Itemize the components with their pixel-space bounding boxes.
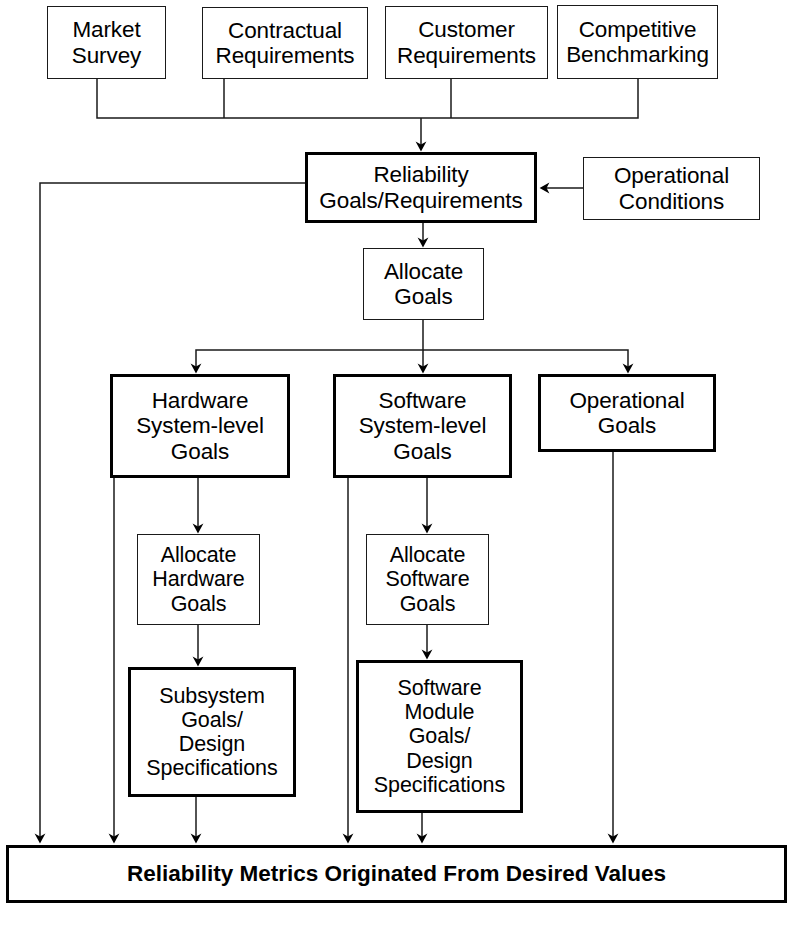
- node-market-survey-label: Market Survey: [48, 17, 165, 67]
- node-subsystem-goals-design-label: Subsystem Goals/ Design Specifications: [131, 684, 293, 780]
- edge-allocate-goals-to-hardware: [196, 320, 423, 368]
- node-allocate-hardware-goals[interactable]: Allocate Hardware Goals: [137, 534, 260, 625]
- flowchart-canvas: Market Survey Contractual Requirements C…: [0, 0, 792, 925]
- node-allocate-goals-label: Allocate Goals: [364, 259, 483, 309]
- node-customer-requirements-label: Customer Requirements: [386, 17, 547, 67]
- node-operational-goals-label: Operational Goals: [541, 388, 713, 438]
- node-competitive-benchmarking-label: Competitive Benchmarking: [558, 17, 717, 67]
- node-contractual-requirements[interactable]: Contractual Requirements: [202, 7, 368, 79]
- node-hardware-system-goals-label: Hardware System-level Goals: [113, 388, 287, 464]
- node-reliability-goals-label: Reliability Goals/Requirements: [308, 162, 534, 212]
- node-customer-requirements[interactable]: Customer Requirements: [385, 6, 548, 79]
- node-software-system-goals-label: Software System-level Goals: [336, 388, 509, 464]
- edge-allocate-goals-to-operational: [423, 350, 628, 368]
- edge-market-survey-to-bus: [97, 79, 421, 118]
- node-software-module-goals-label: Software Module Goals/ Design Specificat…: [359, 676, 520, 796]
- node-allocate-goals[interactable]: Allocate Goals: [363, 248, 484, 320]
- node-operational-conditions-label: Operational Conditions: [584, 163, 759, 213]
- node-software-system-goals[interactable]: Software System-level Goals: [333, 374, 512, 478]
- node-operational-conditions[interactable]: Operational Conditions: [583, 157, 760, 220]
- node-allocate-software-goals[interactable]: Allocate Software Goals: [366, 534, 489, 625]
- node-allocate-software-goals-label: Allocate Software Goals: [367, 543, 488, 615]
- node-allocate-hardware-goals-label: Allocate Hardware Goals: [138, 543, 259, 615]
- node-operational-goals[interactable]: Operational Goals: [538, 374, 716, 452]
- node-market-survey[interactable]: Market Survey: [47, 6, 166, 79]
- node-reliability-metrics[interactable]: Reliability Metrics Originated From Desi…: [6, 845, 787, 903]
- node-subsystem-goals-design[interactable]: Subsystem Goals/ Design Specifications: [128, 667, 296, 797]
- node-reliability-goals[interactable]: Reliability Goals/Requirements: [305, 152, 537, 223]
- node-contractual-requirements-label: Contractual Requirements: [203, 18, 367, 68]
- node-hardware-system-goals[interactable]: Hardware System-level Goals: [110, 374, 290, 478]
- node-reliability-metrics-label: Reliability Metrics Originated From Desi…: [9, 861, 784, 886]
- node-software-module-goals[interactable]: Software Module Goals/ Design Specificat…: [356, 660, 523, 813]
- edge-competitive-to-bus: [421, 79, 638, 118]
- node-competitive-benchmarking[interactable]: Competitive Benchmarking: [557, 5, 718, 79]
